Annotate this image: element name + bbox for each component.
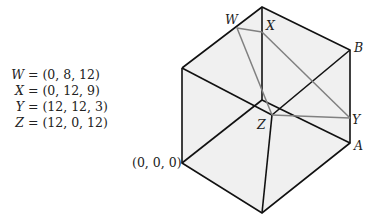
label-b: B bbox=[353, 40, 363, 55]
label-a: A bbox=[353, 138, 363, 153]
label-w: W bbox=[225, 12, 239, 27]
cube-diagram: W X B Y Z A (0, 0, 0) bbox=[0, 0, 379, 218]
label-z: Z bbox=[256, 117, 266, 132]
label-y: Y bbox=[352, 112, 362, 127]
label-x: X bbox=[265, 18, 276, 33]
label-origin: (0, 0, 0) bbox=[132, 155, 182, 170]
